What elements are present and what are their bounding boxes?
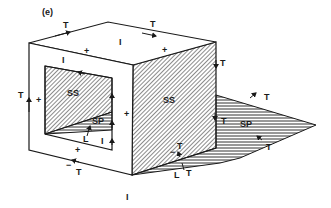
label-window-SS: SS [67,88,79,98]
panel-label: (e) [42,7,53,17]
label-top-T-right: T [150,19,156,29]
label-front-I: I [62,55,65,65]
label-shadow-T-bottom: T [266,142,272,152]
label-shadow-T-inner: T [221,116,227,126]
label-corner-T2: T [186,168,192,178]
label-right-T: T [220,58,226,68]
label-bottom-I: I [126,192,129,202]
label-window-I: I [101,136,104,146]
label-corner-L: L [174,170,180,180]
label-window-SP: SP [92,116,104,126]
label-right-SS: SS [163,95,175,105]
label-top-I: I [119,37,122,47]
label-bottom-minus: − [66,160,71,170]
label-bottom-T: T [76,167,82,177]
label-shadow-SP: SP [240,119,252,129]
label-top-T-left: T [63,20,69,30]
label-front-plus-bottom: + [75,145,80,155]
label-front-plus-right: + [124,109,129,119]
cube-diagram: (e) T T I + + I T + SS SP L I + + − T SS… [0,0,331,208]
label-corner-T: T [177,141,183,151]
label-corner-minus: − [170,147,175,157]
label-shadow-T-top: T [264,92,270,102]
label-window-L: L [83,134,89,144]
label-top-plus-right: + [162,45,167,55]
label-top-plus-front: + [84,46,89,56]
label-left-T: T [18,90,24,100]
shadow-top-tick [250,93,256,98]
label-left-plus: + [36,95,41,105]
